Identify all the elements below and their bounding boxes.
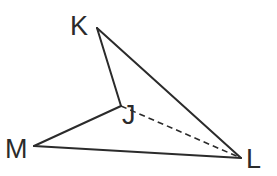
vertex-label-K: K [70,11,88,41]
edge-KL [97,28,241,158]
edge-JL-dashed [121,106,241,158]
edge-JM [34,106,121,146]
geometry-diagram: K J M L [0,0,277,176]
edges [34,28,241,158]
vertex-label-L: L [246,144,261,174]
edge-ML [34,146,241,158]
vertex-label-J: J [122,100,136,130]
vertex-label-M: M [5,134,28,164]
